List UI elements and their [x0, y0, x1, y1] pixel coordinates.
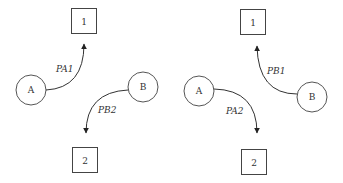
right-edge-pa2-label: PA2: [225, 106, 244, 116]
left-edge-pa1-label: PA1: [55, 64, 73, 74]
left-node-a: A: [16, 75, 46, 105]
right-node-a-label: A: [195, 86, 203, 96]
left-edge-pb2-label: PB2: [97, 105, 117, 115]
left-box-1-label: 1: [81, 17, 87, 27]
right-box-1-label: 1: [250, 18, 256, 28]
left-node-b-label: B: [140, 82, 147, 92]
left-node-a-label: A: [27, 85, 35, 95]
left-box-2: 2: [73, 148, 98, 173]
right-edge-pb1-label: PB1: [266, 66, 285, 76]
right-panel: 1 2 A B PB1 PA2: [184, 10, 327, 175]
left-panel: 1 2 A B PA1 PB2: [16, 9, 158, 173]
right-node-b: B: [297, 82, 327, 112]
left-box-2-label: 2: [82, 156, 88, 166]
left-box-1: 1: [72, 9, 97, 34]
right-node-b-label: B: [309, 92, 316, 102]
right-box-2-label: 2: [251, 158, 257, 168]
right-node-a: A: [184, 76, 214, 106]
right-box-1: 1: [241, 10, 266, 35]
left-node-b: B: [128, 72, 158, 102]
right-box-2: 2: [242, 150, 267, 175]
diagram-canvas: 1 2 A B PA1 PB2 1 2 A: [0, 0, 343, 183]
